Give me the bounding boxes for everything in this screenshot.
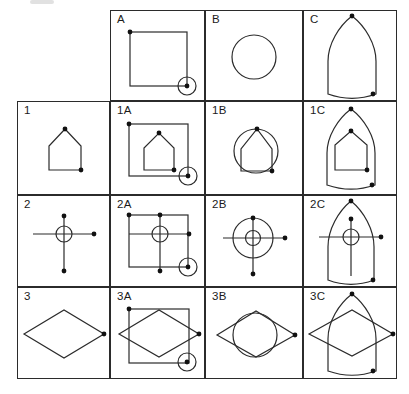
cell-1A: 1A: [110, 101, 205, 195]
cell-label: 2: [24, 198, 31, 210]
cell-3: 3: [17, 287, 110, 379]
cell-label: A: [117, 13, 125, 25]
square-shape: [129, 215, 188, 267]
cell-label: C: [310, 13, 319, 25]
end-dot-shape: [158, 269, 163, 274]
cell-2B: 2B: [205, 195, 303, 287]
cell-3B: 3B: [205, 287, 303, 379]
apex-dot-shape: [349, 199, 354, 204]
diamond-shape: [119, 310, 199, 357]
corner-dot-shape: [270, 169, 275, 174]
diamond-shape: [24, 310, 104, 358]
corner-dot-shape: [172, 168, 177, 173]
cell-1C: 1C: [303, 101, 397, 195]
cell-label: 2B: [212, 198, 227, 210]
arch-shape: [327, 109, 375, 189]
corner-dot-shape: [127, 213, 132, 218]
cell-label: 3A: [117, 290, 132, 302]
corner-dot-shape: [127, 307, 132, 312]
apex-dot-shape: [255, 127, 260, 132]
corner-dot-shape: [370, 183, 375, 188]
end-dot-shape: [379, 235, 384, 240]
cell-B: B: [205, 10, 303, 101]
cell-C: C: [303, 10, 397, 101]
cell-label: 2A: [117, 198, 132, 210]
house-shape: [144, 133, 174, 170]
house-shape: [335, 131, 367, 170]
ring-marker-dot-shape: [186, 174, 191, 179]
square-shape: [130, 32, 187, 86]
matrix-grid: ABC11A1B1C22A2B2C33A3B3C: [0, 0, 409, 394]
apex-dot-shape: [349, 107, 354, 112]
cell-2: 2: [17, 195, 110, 287]
cell-1B: 1B: [205, 101, 303, 195]
apex-dot-shape: [63, 127, 68, 132]
apex-dot-shape: [350, 292, 355, 297]
end-dot-shape: [251, 216, 256, 221]
scan-artifact: [30, 0, 54, 4]
cell-label: 1A: [117, 104, 132, 116]
cell-label: 1B: [212, 104, 227, 116]
cell-label: 1: [24, 104, 31, 116]
cell-figure: [18, 196, 111, 288]
vertex-dot-shape: [391, 332, 396, 337]
end-dot-shape: [62, 214, 67, 219]
corner-dot-shape: [365, 168, 370, 173]
cell-label: B: [212, 13, 220, 25]
cell-label: 3B: [212, 290, 227, 302]
ring-marker-dot-shape: [185, 360, 190, 365]
end-dot-shape: [92, 232, 97, 237]
cell-figure: [18, 102, 111, 196]
diamond-shape: [309, 310, 393, 356]
end-dot-shape: [349, 217, 354, 222]
arch-shape: [328, 16, 376, 98]
cell-figure: [111, 11, 206, 102]
ring-marker-shape: [178, 353, 196, 371]
end-dot-shape: [62, 269, 67, 274]
apex-dot-shape: [157, 131, 162, 136]
end-dot-shape: [158, 213, 163, 218]
arch-shape: [328, 294, 376, 375]
cell-figure: [18, 288, 111, 380]
end-dot-shape: [187, 232, 192, 237]
house-shape: [49, 129, 81, 170]
cell-3A: 3A: [110, 287, 205, 379]
cell-2C: 2C: [303, 195, 397, 287]
house-shape: [241, 129, 272, 171]
vertex-dot-shape: [197, 332, 202, 337]
diamond-shape: [217, 311, 295, 357]
cell-figure: [206, 11, 304, 102]
cell-figure: [304, 102, 398, 196]
cell-label: 3C: [310, 290, 325, 302]
circle-shape: [232, 35, 276, 79]
corner-dot-shape: [371, 369, 376, 374]
corner-dot-shape: [371, 278, 376, 283]
ring-marker-dot-shape: [186, 265, 191, 270]
cell-figure: [111, 102, 206, 196]
apex-dot-shape: [349, 129, 354, 134]
end-dot-shape: [283, 236, 288, 241]
end-dot-shape: [251, 272, 256, 277]
cell-1: 1: [17, 101, 110, 195]
cell-label: 1C: [310, 104, 325, 116]
vertex-dot-shape: [102, 332, 107, 337]
square-shape: [129, 309, 189, 363]
corner-dot-shape: [127, 122, 132, 127]
ring-marker-dot-shape: [185, 84, 190, 89]
corner-dot-shape: [128, 30, 133, 35]
apex-dot-shape: [350, 14, 355, 19]
cell-3C: 3C: [303, 287, 397, 379]
cell-A: A: [110, 10, 205, 101]
vertex-dot-shape: [293, 333, 298, 338]
cell-label: 3: [24, 290, 31, 302]
cell-figure: [206, 102, 304, 196]
corner-dot-shape: [79, 168, 84, 173]
corner-dot-shape: [371, 92, 376, 97]
cell-2A: 2A: [110, 195, 205, 287]
cell-label: 2C: [310, 198, 325, 210]
